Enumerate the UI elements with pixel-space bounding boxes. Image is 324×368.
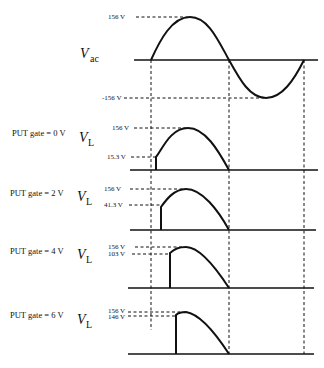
vl-panel-gate-6v: PUT gate = 6 V V L 156 V 146 V: [10, 307, 314, 354]
gate-label: PUT gate = 0 V: [12, 128, 66, 138]
vl-panel-gate-0v: PUT gate = 0 V V L 156 V 15.3 V: [12, 124, 318, 170]
vl-waveform: [170, 247, 229, 288]
gate-label: PUT gate = 4 V: [10, 246, 64, 256]
vac-peak-label: 156 V: [108, 13, 125, 21]
vl-waveform: [161, 189, 229, 230]
vl-waveform: [176, 312, 229, 354]
vl-subscript: L: [86, 196, 92, 207]
vac-subscript: ac: [90, 53, 99, 64]
vac-panel: V ac 156 V -156 V: [80, 13, 318, 102]
vl-waveform: [156, 128, 229, 170]
gate-label: PUT gate = 6 V: [10, 310, 64, 320]
fire-label: 15.3 V: [107, 153, 126, 161]
peak-label: 156 V: [112, 124, 129, 132]
vac-trough-label: -156 V: [102, 94, 122, 102]
put-waveform-diagram: V ac 156 V -156 V PUT gate = 0 V V L 156…: [0, 0, 324, 368]
vl-subscript: L: [88, 137, 94, 148]
fire-label: 103 V: [108, 250, 125, 258]
vac-symbol: V: [80, 46, 90, 61]
fire-label: 146 V: [108, 313, 125, 321]
vl-panel-gate-2v: PUT gate = 2 V V L 156 V 41.3 V: [10, 185, 316, 230]
peak-label: 156 V: [104, 185, 121, 193]
vl-panel-gate-4v: PUT gate = 4 V V L 156 V 103 V: [10, 243, 314, 288]
gate-label: PUT gate = 2 V: [10, 188, 64, 198]
vl-subscript: L: [86, 319, 92, 330]
vl-subscript: L: [86, 254, 92, 265]
fire-label: 41.3 V: [104, 201, 123, 209]
vac-sine-wave: [151, 17, 304, 98]
